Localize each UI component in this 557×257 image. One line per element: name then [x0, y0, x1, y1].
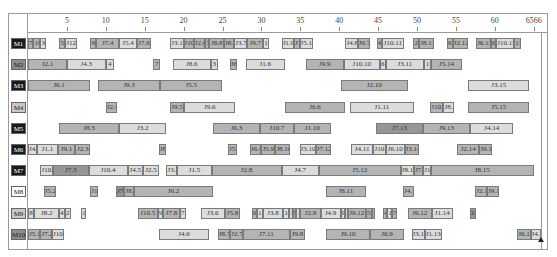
task-bar: J9.6: [184, 102, 235, 113]
task-bar: J10.10: [344, 59, 380, 70]
task-bar: J1.11: [350, 102, 414, 113]
x-tick-mark: [184, 27, 185, 31]
task-bar: J8.7: [218, 229, 230, 240]
task-bar: J8.8: [209, 38, 224, 49]
task-bar: J8.13: [419, 38, 434, 49]
x-tick-label: 10: [102, 16, 110, 25]
task-bar: J7.3: [53, 165, 89, 176]
task-bar: J5.15: [468, 102, 529, 113]
x-tick-mark: [145, 27, 146, 31]
task-bar: J3.4: [166, 165, 177, 176]
task-bar: J1.10: [294, 123, 331, 134]
task-bar: J8.14: [443, 102, 454, 113]
x-tick-mark: [339, 27, 340, 31]
task-bar: J7.14: [414, 165, 423, 176]
task-bar: J3.6: [201, 208, 225, 219]
x-tick-mark: [495, 27, 496, 31]
task-bar: J9.7: [247, 38, 263, 49]
x-tick-mark: [378, 27, 379, 31]
task-bar: J4.6: [159, 229, 210, 240]
x-tick-mark: [456, 27, 457, 31]
task-bar: J3.1: [170, 38, 183, 49]
task-bar: J4.14: [470, 123, 514, 134]
task-bar: J6.7: [358, 38, 370, 49]
task-bar: J1.5: [177, 165, 211, 176]
x-tick-mark: [223, 27, 224, 31]
task-bar: J10.3: [52, 229, 64, 240]
task-bar: J7.6: [137, 38, 151, 49]
x-tick-mark: [534, 27, 535, 31]
task-bar: J5.5: [160, 80, 222, 91]
task-bar: J1.6: [246, 59, 285, 70]
task-bar: J2.9: [300, 208, 320, 219]
x-tick-label: 30: [257, 16, 265, 25]
x-tick-label: 25: [219, 16, 227, 25]
task-bar: 1: [263, 38, 269, 49]
task-bar: J7.2: [40, 229, 52, 240]
task-bar: J10.6: [184, 38, 194, 49]
task-bar: J2.13: [475, 186, 487, 197]
task-bar: J6.13: [476, 38, 491, 49]
task-bar: J8.9: [224, 38, 234, 49]
task-bar: J4.12: [403, 186, 414, 197]
x-tick-label: 6566: [526, 16, 542, 25]
task-bar: 1: [81, 208, 86, 219]
task-bar: J1.4: [90, 186, 98, 197]
task-bar: J4.1: [28, 144, 37, 155]
task-bar: 21: [470, 208, 476, 219]
x-tick-label: 5: [65, 16, 69, 25]
task-bar: J9.10: [326, 229, 370, 240]
task-bar: 10: [33, 38, 40, 49]
task-bar: J10.15: [496, 38, 514, 49]
x-tick-label: 55: [452, 16, 460, 25]
task-bar: J9.15: [479, 144, 492, 155]
machine-label-m7: M7: [11, 165, 26, 176]
task-bar: J10.7: [260, 123, 294, 134]
x-tick-label: 35: [296, 16, 304, 25]
makespan-line: [541, 32, 542, 249]
task-bar: J10.11: [382, 38, 404, 49]
task-bar: J5.7: [228, 144, 237, 155]
task-bar: J8.10: [275, 144, 290, 155]
task-bar: 7: [392, 208, 397, 219]
task-bar: J7.5: [116, 186, 125, 197]
task-bar: J3.10: [300, 144, 316, 155]
task-bar: J6.9: [370, 229, 403, 240]
task-bar: J3.12: [412, 229, 425, 240]
task-bar: J9.8: [290, 229, 305, 240]
task-bar: J4.5: [128, 165, 144, 176]
task-bar: J6.6: [285, 102, 346, 113]
task-bar: J7.8: [163, 208, 179, 219]
task-bar: J8.4: [124, 186, 133, 197]
task-bar: J9.13: [423, 123, 470, 134]
task-bar: J5.12: [319, 165, 401, 176]
machine-label-m6: M6: [11, 144, 26, 155]
machine-label-m5: M5: [11, 123, 26, 134]
task-bar: J6.2: [134, 186, 213, 197]
task-bar: J2.6: [194, 38, 206, 49]
task-bar: J8.12: [401, 165, 414, 176]
task-bar: J8.5: [159, 144, 167, 155]
task-bar: J8.11: [326, 186, 366, 197]
machine-label-m1: M1: [11, 38, 26, 49]
x-tick-label: 20: [180, 16, 188, 25]
task-bar: 4: [106, 59, 114, 70]
task-bar: J4.9: [321, 208, 341, 219]
task-bar: J8.6: [173, 59, 211, 70]
task-bar: J3.15: [468, 80, 529, 91]
x-tick-label: 40: [335, 16, 343, 25]
task-bar: 3: [40, 38, 45, 49]
task-bar: J10.14: [423, 165, 431, 176]
task-bar: J3.2: [119, 123, 166, 134]
task-bar: J6.4: [250, 144, 262, 155]
task-bar: J5.10: [300, 38, 313, 49]
task-bar: J12: [65, 38, 77, 49]
task-bar: J1.13: [425, 229, 442, 240]
task-bar: J6.10: [386, 144, 405, 155]
task-bar: 1: [424, 59, 431, 70]
task-bar: J5.9: [261, 144, 275, 155]
task-bar: J5.2: [44, 186, 56, 197]
time-axis: 510152025303540455055606566: [27, 14, 547, 33]
task-bar: J10.12: [373, 144, 385, 155]
task-bar: J2.8: [212, 165, 282, 176]
